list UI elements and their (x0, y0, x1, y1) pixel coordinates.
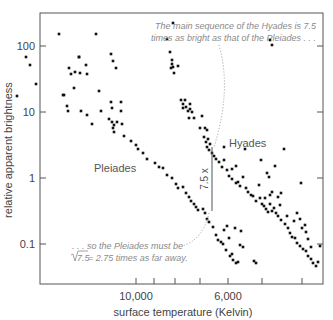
data-point-hyades (277, 215, 280, 218)
y-axis: 100 10 1 0.1 relative apparent brightnes… (2, 40, 323, 250)
data-point-hyades (182, 107, 185, 110)
data-point-hyades (279, 204, 282, 207)
data-point-pleiades (58, 33, 61, 36)
data-point-pleiades (240, 230, 243, 233)
data-point-pleiades (204, 212, 207, 215)
data-point-hyades (275, 212, 278, 215)
data-points (16, 22, 322, 268)
data-point-hyades (268, 176, 271, 179)
data-point-pleiades (223, 229, 226, 232)
data-point-hyades (173, 72, 176, 75)
data-point-pleiades (197, 209, 200, 212)
data-point-hyades (205, 141, 208, 144)
data-point-pleiades (185, 192, 188, 195)
data-point-pleiades (66, 105, 69, 108)
data-point-hyades (228, 175, 231, 178)
data-point-hyades (315, 265, 318, 268)
data-point-pleiades (158, 166, 161, 169)
data-point-pleiades (116, 121, 119, 124)
data-point-pleiades (135, 144, 138, 147)
data-point-hyades (199, 127, 202, 130)
data-point-pleiades (62, 94, 65, 97)
data-point-hyades (207, 138, 210, 141)
data-point-pleiades (242, 246, 245, 249)
data-point-hyades (300, 182, 303, 185)
data-point-pleiades (115, 67, 118, 70)
x-tick-label: 6,000 (214, 290, 242, 302)
data-point-hyades (206, 129, 209, 132)
data-point-pleiades (86, 114, 89, 117)
data-point-pleiades (208, 221, 211, 224)
x-axis-title: surface temperature (Kelvin) (114, 306, 253, 318)
data-point-hyades (301, 227, 304, 230)
data-point-hyades (287, 227, 290, 230)
data-point-hyades (264, 197, 267, 200)
data-point-hyades (283, 148, 286, 151)
data-point-pleiades (113, 131, 116, 134)
data-point-pleiades (29, 64, 32, 67)
data-point-hyades (215, 158, 218, 161)
data-point-pleiades (111, 107, 114, 110)
data-point-pleiades (112, 60, 115, 63)
data-point-pleiades (16, 95, 19, 98)
data-point-hyades (317, 261, 320, 264)
data-point-pleiades (86, 73, 89, 76)
data-point-hyades (208, 149, 211, 152)
data-point-pleiades (73, 87, 76, 90)
data-point-hyades (269, 203, 272, 206)
data-point-hyades (307, 238, 310, 241)
y-tick-label: 0.1 (20, 238, 35, 250)
data-point-pleiades (95, 33, 98, 36)
data-point-hyades (193, 117, 196, 120)
data-point-hyades (182, 103, 185, 106)
x-tick-label: 10,000 (119, 290, 153, 302)
data-point-pleiades (110, 53, 113, 56)
data-point-hyades (304, 224, 307, 227)
data-point-hyades (296, 242, 299, 245)
data-point-hyades (231, 168, 234, 171)
data-point-pleiades (113, 124, 116, 127)
sqrt-expression: 7.5 = 2.75 times as far away. (71, 251, 188, 263)
data-point-hyades (184, 99, 187, 102)
data-point-pleiades (98, 90, 101, 93)
data-point-pleiades (111, 121, 114, 124)
data-point-pleiades (67, 110, 70, 113)
data-point-hyades (273, 207, 276, 210)
data-point-pleiades (121, 123, 124, 126)
data-point-hyades (305, 250, 308, 253)
data-point-hyades (255, 200, 258, 203)
data-point-pleiades (91, 123, 94, 126)
data-point-hyades (299, 218, 302, 221)
data-point-hyades (258, 184, 261, 187)
data-point-hyades (247, 191, 250, 194)
data-point-pleiades (154, 162, 157, 165)
data-point-pleiades (70, 73, 73, 76)
data-point-hyades (191, 111, 194, 114)
data-point-pleiades (195, 206, 198, 209)
data-point-hyades (188, 117, 191, 120)
data-point-hyades (245, 187, 248, 190)
data-point-pleiades (232, 259, 235, 262)
data-point-hyades (172, 66, 175, 69)
data-point-pleiades (212, 226, 215, 229)
data-point-pleiades (142, 152, 145, 155)
data-point-pleiades (74, 71, 77, 74)
annotation-top-line1: The main sequence of the Hyades is 7.5 (155, 21, 317, 31)
data-point-hyades (271, 191, 274, 194)
y-tick-label: 1 (29, 172, 35, 184)
data-point-pleiades (182, 186, 185, 189)
data-point-hyades (169, 51, 172, 54)
data-point-pleiades (202, 208, 205, 211)
data-point-pleiades (225, 249, 228, 252)
data-point-hyades (307, 255, 310, 258)
data-point-hyades (319, 245, 322, 248)
data-point-hyades (310, 246, 313, 249)
data-point-pleiades (217, 239, 220, 242)
data-point-hyades (231, 178, 234, 181)
data-point-hyades (271, 210, 274, 213)
data-point-pleiades (25, 56, 28, 59)
annotation-top-line2: times as bright as that of the Pleiades … (151, 33, 316, 43)
data-point-hyades (274, 165, 277, 168)
data-point-pleiades (255, 262, 258, 265)
data-point-pleiades (110, 101, 113, 104)
